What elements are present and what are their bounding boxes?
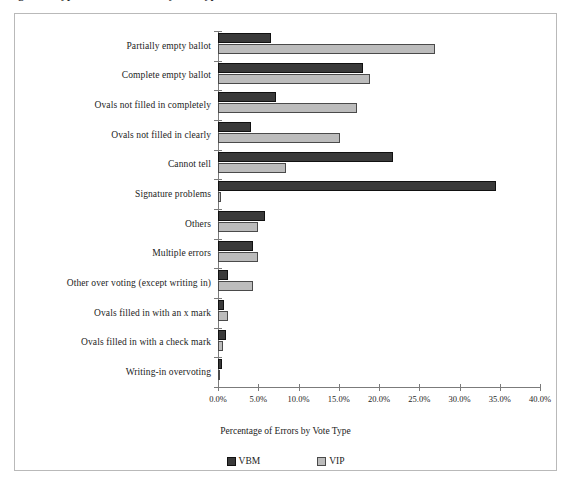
bar-vip[interactable]: [218, 192, 221, 202]
bar-vbm[interactable]: [218, 152, 393, 162]
category-label: Writing-in overvoting: [126, 367, 211, 377]
x-axis-tick-label: 20.0%: [368, 394, 390, 404]
legend-entry-vbm[interactable]: VBM: [227, 456, 261, 466]
chart-category-row: Writing-in overvoting: [218, 357, 540, 387]
bar-vbm[interactable]: [218, 241, 253, 251]
category-tick: [214, 61, 222, 62]
chart-category-row: Cannot tell: [218, 150, 540, 180]
bar-vip[interactable]: [218, 133, 340, 143]
legend-entry-vip[interactable]: VIP: [317, 456, 344, 466]
x-axis-tick-label: 40.0%: [529, 394, 551, 404]
x-axis-tick-label: 15.0%: [328, 394, 350, 404]
bar-vbm[interactable]: [218, 330, 226, 340]
bar-vip[interactable]: [218, 44, 435, 54]
category-tick: [214, 268, 222, 269]
category-tick: [214, 298, 222, 299]
x-axis-tick-label: 25.0%: [408, 394, 430, 404]
chart-category-row: Signature problems: [218, 179, 540, 209]
category-tick: [214, 179, 222, 180]
category-tick: [214, 357, 222, 358]
x-axis-tick: [299, 384, 300, 391]
chart-category-row: Multiple errors: [218, 239, 540, 269]
chart-category-row: Complete empty ballot: [218, 61, 540, 91]
category-label: Ovals not filled in completely: [95, 100, 211, 110]
bar-vbm[interactable]: [218, 122, 251, 132]
bar-vbm[interactable]: [218, 359, 222, 369]
x-axis-tick: [540, 384, 541, 391]
bar-vip[interactable]: [218, 74, 370, 84]
bar-vbm[interactable]: [218, 181, 496, 191]
bar-vip[interactable]: [218, 252, 258, 262]
bar-vbm[interactable]: [218, 270, 228, 280]
legend-label-vbm: VBM: [239, 456, 261, 466]
x-axis-tick: [379, 384, 380, 391]
bar-vbm[interactable]: [218, 300, 224, 310]
x-axis-title: Percentage of Errors by Vote Type: [15, 426, 556, 436]
category-tick: [214, 120, 222, 121]
x-axis-tick: [500, 384, 501, 391]
x-axis-tick-label: 10.0%: [288, 394, 310, 404]
x-axis-tick-label: 0.0%: [209, 394, 227, 404]
x-axis-tick: [258, 384, 259, 391]
category-tick: [214, 239, 222, 240]
chart-category-row: Others: [218, 209, 540, 239]
x-axis-tick-label: 35.0%: [489, 394, 511, 404]
chart-category-row: Ovals filled in with a check mark: [218, 328, 540, 358]
category-label: Cannot tell: [168, 159, 211, 169]
chart-category-row: Ovals filled in with an x mark: [218, 298, 540, 328]
bar-vbm[interactable]: [218, 63, 363, 73]
clipped-figure-caption: Figure 6. Types of ballot errors by vote…: [8, 0, 428, 3]
category-tick: [214, 328, 222, 329]
category-label: Other over voting (except writing in): [67, 278, 211, 288]
category-label: Ovals filled in with an x mark: [94, 308, 211, 318]
category-tick: [214, 209, 222, 210]
chart-category-row: Ovals not filled in clearly: [218, 120, 540, 150]
category-label: Signature problems: [135, 189, 211, 199]
bar-vip[interactable]: [218, 103, 357, 113]
bar-vbm[interactable]: [218, 33, 271, 43]
chart-category-row: Partially empty ballot: [218, 31, 540, 61]
category-tick: [214, 90, 222, 91]
bar-vbm[interactable]: [218, 211, 265, 221]
legend-swatch-vip-icon: [317, 457, 326, 466]
category-label: Multiple errors: [152, 248, 211, 258]
legend-swatch-vbm-icon: [227, 457, 236, 466]
x-axis-tick: [339, 384, 340, 391]
x-axis-tick-label: 30.0%: [449, 394, 471, 404]
category-tick: [214, 150, 222, 151]
bar-vip[interactable]: [218, 222, 258, 232]
category-label: Others: [185, 219, 211, 229]
plot-area: Partially empty ballotComplete empty bal…: [218, 31, 540, 386]
chart-frame: Partially empty ballotComplete empty bal…: [14, 13, 557, 471]
x-axis-tick: [218, 384, 219, 391]
x-axis-tick: [460, 384, 461, 391]
x-axis-tick-label: 5.0%: [249, 394, 267, 404]
bar-vbm[interactable]: [218, 92, 276, 102]
category-label: Ovals not filled in clearly: [111, 130, 211, 140]
chart-legend: VBM VIP: [15, 456, 556, 466]
legend-label-vip: VIP: [329, 456, 344, 466]
category-label: Partially empty ballot: [126, 41, 211, 51]
x-axis-tick: [419, 384, 420, 391]
category-label: Ovals filled in with a check mark: [81, 337, 211, 347]
chart-category-row: Other over voting (except writing in): [218, 268, 540, 298]
category-tick: [214, 31, 222, 32]
bar-vip[interactable]: [218, 311, 228, 321]
bar-vip[interactable]: [218, 341, 223, 351]
bar-vip[interactable]: [218, 163, 286, 173]
bar-vip[interactable]: [218, 370, 220, 380]
bar-vip[interactable]: [218, 281, 253, 291]
category-label: Complete empty ballot: [122, 70, 211, 80]
chart-category-row: Ovals not filled in completely: [218, 90, 540, 120]
